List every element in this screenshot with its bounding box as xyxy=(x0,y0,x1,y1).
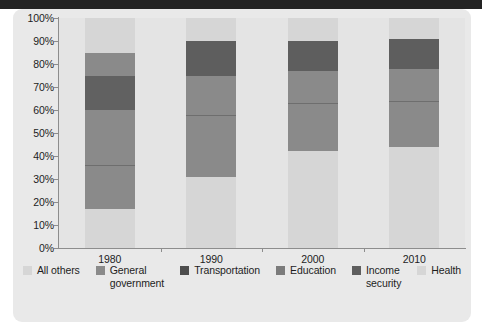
bar-segment[interactable] xyxy=(186,115,236,177)
segment-divider xyxy=(288,103,338,104)
top-dark-band xyxy=(0,0,482,9)
segment-divider xyxy=(186,115,236,116)
legend-label: All others xyxy=(37,264,80,277)
bar-segment[interactable] xyxy=(85,76,135,111)
chart-figure: 0%10%20%30%40%50%60%70%80%90%100% 198019… xyxy=(0,0,482,334)
legend-swatch-icon xyxy=(23,266,32,275)
segment-divider xyxy=(389,101,439,102)
bar-segment[interactable] xyxy=(186,18,236,41)
legend-label: Education xyxy=(290,264,336,277)
y-tick-mark xyxy=(54,41,59,42)
legend-swatch-icon xyxy=(276,266,285,275)
legend-swatch-icon xyxy=(180,266,189,275)
y-tick-mark xyxy=(54,179,59,180)
legend-swatch-icon xyxy=(352,266,361,275)
legend-item[interactable]: Education xyxy=(276,264,336,277)
y-tick-label: 60% xyxy=(2,105,54,115)
y-tick-label: 80% xyxy=(2,59,54,69)
bar-segment[interactable] xyxy=(389,39,439,69)
bar-segment[interactable] xyxy=(288,151,338,248)
y-tick-label: 90% xyxy=(2,36,54,46)
y-axis: 0%10%20%30%40%50%60%70%80%90%100% xyxy=(0,0,54,260)
legend-swatch-icon xyxy=(417,266,426,275)
y-tick-mark xyxy=(54,18,59,19)
y-tick-label: 20% xyxy=(2,197,54,207)
bar-segment[interactable] xyxy=(186,177,236,248)
bar-2010[interactable] xyxy=(389,18,439,248)
y-tick-label: 10% xyxy=(2,220,54,230)
bar-2000[interactable] xyxy=(288,18,338,248)
y-tick-mark xyxy=(54,248,59,249)
y-tick-mark xyxy=(54,225,59,226)
segment-divider xyxy=(85,165,135,166)
bar-segment[interactable] xyxy=(389,69,439,101)
bar-1990[interactable] xyxy=(186,18,236,248)
y-tick-label: 100% xyxy=(2,13,54,23)
bar-segment[interactable] xyxy=(389,147,439,248)
y-tick-mark xyxy=(54,64,59,65)
legend-label: Health xyxy=(431,264,461,277)
bar-segment[interactable] xyxy=(389,101,439,147)
x-tick-mark xyxy=(161,248,162,252)
y-tick-mark xyxy=(54,156,59,157)
bar-segment[interactable] xyxy=(85,110,135,165)
y-tick-label: 40% xyxy=(2,151,54,161)
chart-legend: All othersGeneral governmentTransportati… xyxy=(13,264,471,304)
legend-item[interactable]: Transportation xyxy=(180,264,260,277)
y-tick-mark xyxy=(54,202,59,203)
bar-segment[interactable] xyxy=(85,53,135,76)
legend-label: Income security xyxy=(366,264,401,289)
bar-segment[interactable] xyxy=(85,209,135,248)
legend-item[interactable]: Health xyxy=(417,264,461,277)
bar-1980[interactable] xyxy=(85,18,135,248)
bar-segment[interactable] xyxy=(186,76,236,115)
bar-segment[interactable] xyxy=(85,165,135,209)
legend-item[interactable]: General government xyxy=(96,264,164,289)
y-tick-mark xyxy=(54,133,59,134)
y-tick-label: 50% xyxy=(2,128,54,138)
bar-segment[interactable] xyxy=(288,103,338,151)
bar-segment[interactable] xyxy=(288,18,338,41)
y-tick-label: 70% xyxy=(2,82,54,92)
y-tick-mark xyxy=(54,87,59,88)
y-tick-label: 30% xyxy=(2,174,54,184)
bar-segment[interactable] xyxy=(389,18,439,39)
bar-segment[interactable] xyxy=(288,71,338,103)
legend-item[interactable]: All others xyxy=(23,264,80,277)
legend-label: General government xyxy=(110,264,164,289)
y-tick-mark xyxy=(54,110,59,111)
plot-area xyxy=(59,18,465,248)
bar-segment[interactable] xyxy=(186,41,236,76)
bar-segment[interactable] xyxy=(85,18,135,53)
legend-label: Transportation xyxy=(194,264,260,277)
x-tick-mark xyxy=(262,248,263,252)
legend-swatch-icon xyxy=(96,266,105,275)
x-tick-mark xyxy=(364,248,365,252)
bar-segment[interactable] xyxy=(288,41,338,71)
legend-item[interactable]: Income security xyxy=(352,264,401,289)
y-tick-label: 0% xyxy=(2,243,54,253)
